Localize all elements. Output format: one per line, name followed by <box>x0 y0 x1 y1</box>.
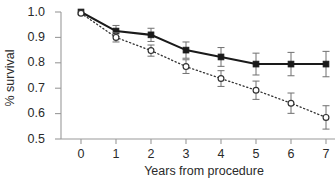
y-tick-label: 0.9 <box>28 30 45 44</box>
data-point-circle <box>78 10 84 16</box>
x-tick-label: 6 <box>288 147 295 161</box>
survival-curve-figure: % survival 1.0 0.9 0.8 0.7 0.6 0.5 01234… <box>0 0 335 180</box>
y-tick-label: 0.8 <box>28 55 45 69</box>
chart-series-solid-filled-square <box>78 9 329 77</box>
x-axis-title: Years from procedure <box>144 164 264 178</box>
x-tick-labels: 01234567 <box>78 147 330 161</box>
x-tick-label: 3 <box>183 147 190 161</box>
data-point-circle <box>288 100 294 106</box>
y-tick-label: 1.0 <box>28 5 45 19</box>
y-axis-title: % survival <box>3 50 17 107</box>
data-point-circle <box>113 35 119 41</box>
x-tick-label: 0 <box>78 147 85 161</box>
data-point-square <box>218 54 224 60</box>
y-tick-label: 0.5 <box>28 132 45 146</box>
x-tick-label: 2 <box>148 147 155 161</box>
data-point-circle <box>148 48 154 54</box>
data-point-square <box>148 32 154 38</box>
data-point-circle <box>218 76 224 82</box>
data-point-square <box>253 61 259 67</box>
data-point-circle <box>183 64 189 70</box>
chart-axes <box>55 12 335 144</box>
y-tick-labels: 1.0 0.9 0.8 0.7 0.6 0.5 <box>28 5 45 146</box>
x-tick-label: 5 <box>253 147 260 161</box>
x-tick-label: 7 <box>323 147 330 161</box>
chart-canvas: % survival 1.0 0.9 0.8 0.7 0.6 0.5 01234… <box>0 0 335 180</box>
y-tick-label: 0.7 <box>28 81 45 95</box>
data-point-square <box>323 61 329 67</box>
y-tick-label: 0.6 <box>28 106 45 120</box>
x-tick-label: 1 <box>113 147 120 161</box>
chart-series-layer <box>78 9 329 129</box>
data-point-circle <box>253 87 259 93</box>
x-tick-label: 4 <box>218 147 225 161</box>
data-point-circle <box>323 115 329 121</box>
data-point-square <box>183 47 189 53</box>
data-point-square <box>288 61 294 67</box>
